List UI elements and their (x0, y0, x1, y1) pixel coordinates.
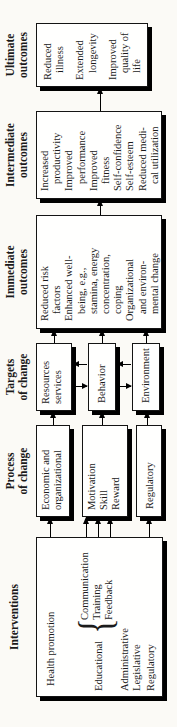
box-item: Organizationaland environ-mental change (124, 223, 161, 321)
legislative-label: Legislative (131, 644, 142, 691)
heading-immediate-outcomes: Immediateoutcomes (4, 227, 29, 317)
box-line: Reduced risk (39, 223, 51, 321)
box-resources-services: Resourcesservices (36, 343, 72, 411)
arrow-behavior-to-immediate (102, 329, 103, 343)
box-line: life (131, 30, 143, 80)
box-item: Reducedillness (42, 30, 66, 80)
box-line: and environ- (137, 223, 149, 321)
arrow-behavior-to-resources (74, 364, 87, 365)
box-environment: Environment (132, 343, 160, 411)
box-line: stamina, energy (88, 223, 100, 321)
box-line: Motivation (86, 432, 98, 510)
arrow-training-to-skill (98, 517, 99, 537)
arrow-resources-to-behavior (74, 386, 87, 387)
box-line: of change (17, 431, 30, 511)
box-line: Improved (63, 119, 75, 191)
educational-label: Educational (93, 641, 104, 691)
heading-interventions: Interventions (8, 557, 21, 677)
box-line: illness (54, 30, 66, 80)
box-ultimate-outcomes: ReducedillnessExtendedlongevityImprovedq… (36, 23, 148, 87)
heading-intermediate-outcomes: Intermediateoutcomes (4, 110, 29, 200)
box-line: Increased (39, 119, 51, 191)
box-line: Environment (140, 344, 152, 403)
box-line: Communication (79, 552, 91, 620)
box-line: performance (76, 119, 88, 191)
box-item: Improvedquality oflife (107, 30, 144, 80)
box-line: Improved (88, 119, 100, 191)
arrow-resources-to-immediate (54, 329, 55, 343)
box-line: Self-esteem (124, 119, 136, 191)
box-line: Reduced medi- (137, 119, 149, 191)
arrow-communication-to-motivation (86, 517, 87, 537)
box-line: factors (51, 223, 63, 321)
arrow-feedback-to-reward (110, 517, 111, 537)
health-promotion-label: Health promotion (45, 612, 56, 686)
arrow-regulatory-to-environment (147, 411, 148, 425)
box-line: Resources (40, 350, 52, 404)
box-line: longevity (87, 30, 99, 80)
box-line: Regulatory (144, 426, 156, 509)
box-line: services (52, 350, 64, 404)
box-item: Increasedproductivity (39, 119, 63, 191)
box-line: fitness (100, 119, 112, 191)
arrow-immediate-to-intermediate (100, 199, 101, 215)
box-line: concentration, (100, 223, 112, 321)
box-behavior: Behavior (88, 343, 116, 411)
box-line: outcomes (17, 110, 30, 200)
regulatory-label: Regulatory (145, 644, 156, 691)
arrow-environment-to-immediate (146, 329, 147, 343)
box-line: productivity (51, 119, 63, 191)
box-line: mental change (149, 223, 161, 321)
box-intermediate-outcomes: IncreasedproductivityImprovedperformance… (36, 111, 162, 199)
box-line: being, e.g., (76, 223, 88, 321)
box-item: Reduced medi-cal utilization (137, 119, 161, 191)
box-line: Intermediate (4, 110, 17, 200)
administrative-label: Administrative (119, 628, 130, 691)
box-line: Self-confidence (112, 119, 124, 191)
box-line: Reduced (42, 30, 54, 80)
box-line: Organizational (124, 223, 136, 321)
box-line: Improved (107, 30, 119, 80)
box-line: outcomes (17, 227, 30, 317)
box-line: coping (112, 223, 124, 321)
arrow-regulatory-to-regulatory (149, 517, 150, 537)
brace-icon: { (76, 618, 116, 633)
box-item: Reduced riskfactors (39, 223, 63, 321)
box-line: Enhanced well- (63, 223, 75, 321)
box-line: Process (4, 431, 17, 511)
box-line: quality of (119, 30, 131, 80)
box-interventions: Health promotion Educational { Communica… (36, 537, 163, 697)
box-item: Improvedfitness (88, 119, 112, 191)
box-item: Self-esteem (124, 119, 136, 191)
box-economic-organizational: Economic andorganizational (36, 425, 70, 517)
box-line: Skill (98, 432, 110, 510)
box-immediate-outcomes: Reduced riskfactorsEnhanced well-being, … (36, 215, 162, 329)
box-line: Training (91, 552, 103, 620)
box-motivation-skill-reward: MotivationSkillReward (82, 425, 128, 517)
box-item: Enhanced well-being, e.g.,stamina, energ… (63, 223, 124, 321)
box-process-regulatory: Regulatory (136, 425, 162, 517)
box-line: Behavior (96, 344, 108, 403)
box-line: Extended (74, 30, 86, 80)
box-line: Ultimate (4, 15, 17, 95)
arrow-motivation-to-behavior (102, 411, 103, 425)
flow-diagram: Interventions Processof change Targetsof… (0, 0, 177, 727)
box-line: Targets (4, 337, 17, 417)
box-line: outcomes (17, 15, 30, 95)
heading-targets-of-change: Targetsof change (4, 337, 29, 417)
heading-process-of-change: Processof change (4, 431, 29, 511)
educational-methods-list: CommunicationTrainingFeedback (79, 552, 116, 620)
arrow-interventions-to-economic (50, 517, 51, 537)
box-line: cal utilization (149, 119, 161, 191)
arrow-economic-to-resources (53, 411, 54, 425)
box-item: Improvedperformance (63, 119, 87, 191)
box-line: of change (17, 337, 30, 417)
box-line: Reward (110, 432, 122, 510)
box-item: Extendedlongevity (74, 30, 98, 80)
box-line: Immediate (4, 227, 17, 317)
heading-ultimate-outcomes: Ultimateoutcomes (4, 15, 29, 95)
box-line: Feedback (103, 552, 115, 620)
arrow-intermediate-to-ultimate (100, 87, 101, 111)
arrow-behavior-to-environment (118, 386, 131, 387)
box-line: Economic and (40, 432, 52, 510)
